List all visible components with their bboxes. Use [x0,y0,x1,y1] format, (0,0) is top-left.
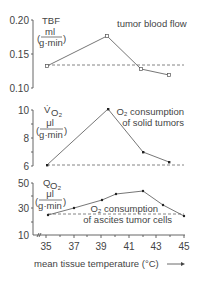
x-axis-label: mean tissue temperature (°C) [34,258,159,269]
ytick-qo2-0: 50 [18,178,30,189]
marker [140,68,143,71]
svg-text:): ) [64,125,67,136]
x-axis: 35 37 39 41 43 45 mean tissue temperatur… [33,233,190,269]
ytick-tbf-2: 0.10 [10,83,30,94]
ylabel-tbf-num: ml [45,26,55,37]
panel-o2-ascites-cells: 50 30 10 Q O₂ μl g·min ( ) O₂ consumptio… [18,177,185,241]
ytick-qo2-2: 10 [18,230,30,241]
xtick-35: 35 [40,241,52,252]
marker [162,204,164,206]
marker [73,207,75,209]
ylabel-tbf-den: g·min [39,37,63,48]
ytick-vo2-0: 10 [18,105,30,116]
panel-tumor-blood-flow: 0.20 0.15 0.10 TBF ml g·min ( ) tumor bl… [10,15,187,94]
ylabel-vo2: V̇ [44,104,51,115]
xtick-39: 39 [95,241,107,252]
ytick-vo2-2: 6 [23,161,29,172]
marker [46,164,48,166]
ytick-vo2-1: 8 [23,133,29,144]
ytick-tbf-0: 0.20 [10,15,30,26]
ylabel-vo2-num: μl [46,117,54,128]
marker [46,65,49,68]
svg-text:): ) [63,196,66,207]
svg-text:): ) [63,33,66,44]
marker [106,35,109,38]
marker [47,214,49,216]
ytick-qo2-1: 30 [18,203,30,214]
title-tbf: tumor blood flow [117,18,187,29]
marker [168,161,170,163]
marker [142,190,144,192]
xtick-37: 37 [68,241,80,252]
panel-o2-solid-tumors: 10 8 6 V̇ O₂ μl g·min ( ) O₂ consumption… [18,104,184,172]
xtick-43: 43 [150,241,162,252]
marker [115,193,117,195]
ylabel-vo2-den: g·min [39,129,63,140]
ytick-tbf-1: 0.15 [10,49,30,60]
marker [142,151,144,153]
marker [101,199,103,201]
ylabel-qo2-den: g·min [38,200,62,211]
marker [168,74,171,77]
title-qo2-line1: O₂ consumption [90,203,158,214]
figure: 0.20 0.15 0.10 TBF ml g·min ( ) tumor bl… [0,0,200,283]
ylabel-qo2-num: μl [46,188,54,199]
title-vo2-line1: O₂ consumption [116,106,184,117]
title-qo2-line2: of ascites tumor cells [83,214,172,225]
marker [183,215,185,217]
title-vo2-line2: of solid tumors [122,117,184,128]
marker [107,108,109,110]
ylabel-tbf: TBF [42,15,60,26]
xtick-45: 45 [178,241,190,252]
xtick-41: 41 [123,241,135,252]
